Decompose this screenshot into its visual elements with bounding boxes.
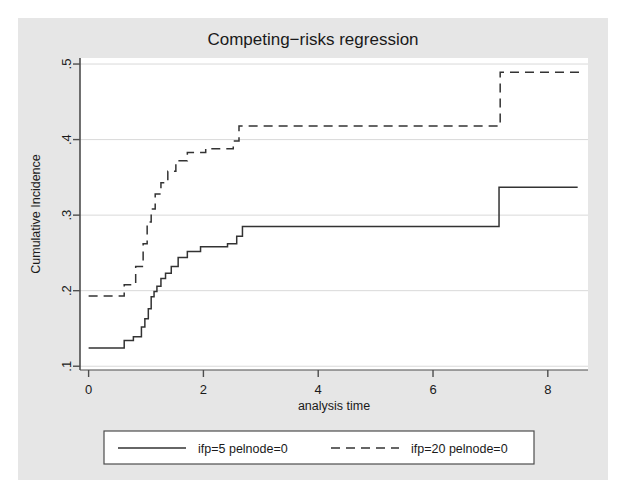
chart-legend: ifp=5 pelnode=0 ifp=20 pelnode=0 xyxy=(104,431,534,464)
chart-title: Competing−risks regression xyxy=(207,30,418,49)
y-axis-ticks xyxy=(73,64,80,366)
y-axis-title: Cumulative Incidence xyxy=(29,154,43,274)
y-tick-label: .5 xyxy=(59,59,74,70)
y-tick-label: .3 xyxy=(59,210,74,221)
x-tick-label: 8 xyxy=(544,382,551,397)
x-tick-label: 0 xyxy=(85,382,92,397)
plot-area-background xyxy=(80,58,588,370)
legend-label-ifp20: ifp=20 pelnode=0 xyxy=(411,442,508,456)
y-axis-tick-labels: .1.2.3.4.5 xyxy=(59,59,74,372)
x-tick-label: 2 xyxy=(200,382,207,397)
stata-graph-region: Competing−risks regression .1.2.3.4.5 02… xyxy=(18,18,608,480)
y-tick-label: .1 xyxy=(59,361,74,372)
x-tick-label: 6 xyxy=(429,382,436,397)
y-tick-label: .4 xyxy=(59,134,74,145)
x-axis-ticks xyxy=(89,370,548,377)
x-tick-label: 4 xyxy=(315,382,322,397)
x-axis-title: analysis time xyxy=(298,399,370,413)
legend-label-ifp5: ifp=5 pelnode=0 xyxy=(198,442,288,456)
figure-container: Competing−risks regression .1.2.3.4.5 02… xyxy=(0,0,624,497)
y-tick-label: .2 xyxy=(59,285,74,296)
competing-risks-chart: Competing−risks regression .1.2.3.4.5 02… xyxy=(18,18,608,480)
x-axis-tick-labels: 02468 xyxy=(85,382,551,397)
